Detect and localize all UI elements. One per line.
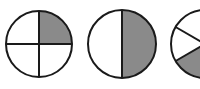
circle-thirds (171, 10, 200, 78)
circle-halves (88, 10, 156, 78)
shaded-half (122, 10, 156, 78)
circle-quarters (6, 11, 72, 77)
fraction-circles-diagram (0, 0, 200, 89)
